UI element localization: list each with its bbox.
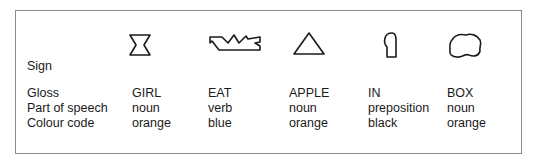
colour-code-cell: black [368,116,397,131]
row-label-sign: Sign [27,59,52,74]
part-of-speech-cell: noun [132,101,160,116]
part-of-speech-cell: noun [289,101,317,116]
jagged-bar-shape-icon [208,33,262,55]
sign-table-frame: Sign Gloss Part of speech Colour code GI… [15,10,522,154]
hourglass-shape-icon [127,33,153,57]
gloss-cell: EAT [208,86,231,101]
colour-code-cell: orange [132,116,171,131]
row-label-gloss: Gloss [27,86,59,101]
triangle-shape-icon [292,31,326,57]
sign-column-box: BOX noun orange [447,11,536,155]
blob-shape-icon [447,32,483,60]
sign-column-apple: APPLE noun orange [289,11,379,155]
part-of-speech-cell: noun [447,101,475,116]
bent-tab-shape-icon [382,31,400,59]
row-label-colour-code: Colour code [27,116,94,131]
gloss-cell: GIRL [132,86,161,101]
gloss-cell: IN [368,86,381,101]
sign-column-in: IN preposition black [368,11,458,155]
colour-code-cell: orange [447,116,486,131]
sign-column-eat: EAT verb blue [208,11,298,155]
gloss-cell: BOX [447,86,473,101]
gloss-cell: APPLE [289,86,329,101]
part-of-speech-cell: preposition [368,101,429,116]
part-of-speech-cell: verb [208,101,232,116]
colour-code-cell: blue [208,116,232,131]
row-label-part-of-speech: Part of speech [27,101,108,116]
colour-code-cell: orange [289,116,328,131]
